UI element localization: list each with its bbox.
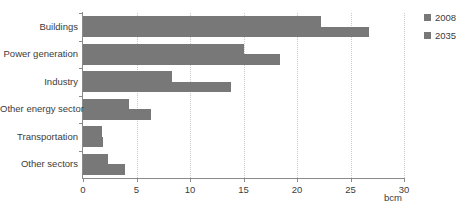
bar-2035-other-sectors — [83, 164, 125, 175]
x-axis-tick-label: 15 — [238, 184, 249, 195]
bar-group — [83, 126, 404, 147]
y-axis-tick — [79, 123, 83, 124]
bar-2035-power-generation — [83, 54, 280, 65]
y-axis-label-industry: Industry — [0, 76, 78, 87]
y-axis-label-transportation: Transportation — [0, 131, 78, 142]
y-axis-label-other-energy-sector: Other energy sector — [0, 103, 78, 114]
x-axis-tick-label: 5 — [134, 184, 139, 195]
bar-2008-transportation — [83, 126, 102, 137]
bar-2008-industry — [83, 71, 172, 82]
x-axis-tick — [83, 178, 84, 182]
legend-label: 2035 — [435, 30, 456, 41]
x-axis-tick — [244, 178, 245, 182]
y-axis-label-power-generation: Power generation — [0, 48, 78, 59]
y-axis-tick — [79, 151, 83, 152]
y-axis-label-buildings: Buildings — [0, 21, 78, 32]
gridline — [404, 13, 406, 178]
bar-group — [83, 154, 404, 175]
plot-area: 051015202530 — [83, 13, 404, 178]
legend-swatch-icon — [424, 32, 431, 39]
y-axis-tick — [79, 96, 83, 97]
y-axis-tick — [79, 68, 83, 69]
chart-title: in the New Policies Scenario — [0, 0, 400, 3]
bar-2035-buildings — [83, 27, 369, 38]
bar-2035-transportation — [83, 137, 103, 148]
x-axis-unit-label: bcm — [384, 192, 402, 203]
legend-item-2035[interactable]: 2035 — [424, 30, 456, 41]
y-axis-label-other-sectors: Other sectors — [0, 158, 78, 169]
y-axis-tick — [79, 41, 83, 42]
x-axis-tick — [297, 178, 298, 182]
x-axis-tick — [404, 178, 405, 182]
bar-2008-other-sectors — [83, 154, 108, 165]
x-axis-tick-label: 20 — [292, 184, 303, 195]
legend-swatch-icon — [424, 14, 431, 21]
y-axis-tick — [79, 13, 83, 14]
bar-group — [83, 44, 404, 65]
bar-2035-industry — [83, 82, 231, 93]
x-axis-tick-label: 10 — [185, 184, 196, 195]
bar-2008-power-generation — [83, 44, 244, 55]
x-axis-tick-label: 0 — [80, 184, 85, 195]
bar-group — [83, 71, 404, 92]
bar-group — [83, 16, 404, 37]
x-axis-tick — [137, 178, 138, 182]
bar-2035-other-energy-sector — [83, 109, 151, 120]
x-axis-tick — [190, 178, 191, 182]
chart-legend: 20082035 — [424, 12, 456, 48]
bar-group — [83, 99, 404, 120]
legend-label: 2008 — [435, 12, 456, 23]
bar-2008-other-energy-sector — [83, 99, 129, 110]
x-axis-tick-label: 25 — [345, 184, 356, 195]
x-axis-tick — [351, 178, 352, 182]
bar-2008-buildings — [83, 16, 321, 27]
chart-figure: in the New Policies Scenario 05101520253… — [0, 0, 458, 211]
legend-item-2008[interactable]: 2008 — [424, 12, 456, 23]
